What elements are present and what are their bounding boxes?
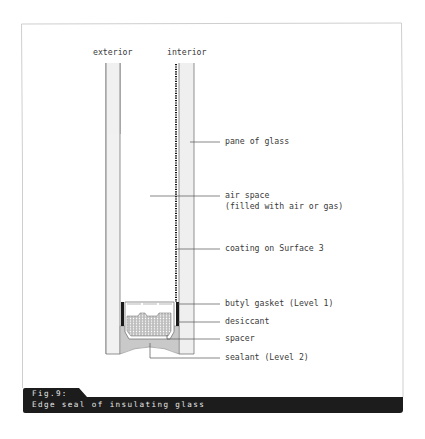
label-air-space-detail: (filled with air or gas)	[225, 201, 343, 212]
interior-glass-pane	[179, 63, 194, 354]
butyl-gasket-right	[176, 302, 179, 326]
exterior-glass-pane	[106, 63, 120, 354]
label-butyl-gasket: butyl gasket (Level 1)	[225, 298, 333, 309]
label-desiccant: desiccant	[225, 316, 269, 327]
caption-figure-number: Fig.9:	[32, 389, 68, 398]
label-coating: coating on Surface 3	[225, 243, 324, 254]
caption-title: Edge seal of insulating glass	[32, 400, 205, 409]
label-spacer: spacer	[225, 333, 255, 344]
label-pane-of-glass: pane of glass	[225, 136, 289, 147]
diagram-canvas	[0, 0, 425, 439]
desiccant	[127, 313, 171, 336]
butyl-gasket-left	[121, 302, 124, 326]
label-air-space: air space	[225, 190, 269, 201]
header-interior: interior	[167, 47, 206, 58]
label-sealant: sealant (Level 2)	[225, 352, 309, 363]
header-exterior: exterior	[93, 47, 132, 58]
